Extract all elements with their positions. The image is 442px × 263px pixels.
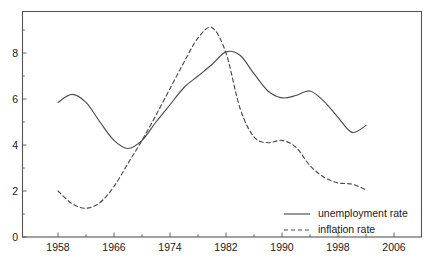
x-tick-label: 1958 <box>46 241 70 253</box>
series-line-unemployment-rate <box>58 51 366 148</box>
y-tick-label: 4 <box>12 139 18 151</box>
x-tick-label: 1966 <box>102 241 126 253</box>
x-tick-label: 2006 <box>382 241 406 253</box>
y-tick-label: 8 <box>12 47 18 59</box>
y-tick-label: 2 <box>12 185 18 197</box>
chart-legend: unemployment rateinflation rate <box>284 207 408 235</box>
x-tick-label: 1990 <box>270 241 294 253</box>
series-line-inflation-rate <box>58 27 366 208</box>
x-axis-ticks: 1958196619741982199019982006 <box>46 233 406 254</box>
chart-container: 1958196619741982199019982006 02468 unemp… <box>0 0 442 263</box>
x-tick-label: 1974 <box>158 241 182 253</box>
legend-label: inflation rate <box>318 223 375 235</box>
series-group <box>58 27 366 208</box>
y-tick-label: 0 <box>12 231 18 243</box>
line-chart: 1958196619741982199019982006 02468 unemp… <box>0 0 442 263</box>
y-axis-ticks: 02468 <box>12 30 26 243</box>
x-tick-label: 1982 <box>214 241 238 253</box>
x-tick-label: 1998 <box>326 241 350 253</box>
legend-label: unemployment rate <box>318 207 408 219</box>
plot-frame <box>23 12 422 238</box>
y-tick-label: 6 <box>12 93 18 105</box>
